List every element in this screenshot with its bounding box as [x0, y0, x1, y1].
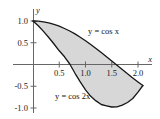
y-tick-label-neg1.0: -1.0 [15, 103, 28, 113]
x-tick-label-2.0: 2.0 [133, 68, 144, 78]
y-tick-label-1.0: 1.0 [17, 16, 28, 26]
x-axis-label: x [147, 54, 152, 64]
y-axis-label: y [35, 5, 40, 15]
x-tick-label-1.0: 1.0 [80, 68, 91, 78]
curve-label-cos-2x: y = cos 2x [55, 91, 91, 101]
y-tick-label-0.5: 0.5 [17, 38, 28, 48]
x-tick-label-1.5: 1.5 [106, 68, 117, 78]
figure-container: 0.5 1.0 1.5 2.0 1.0 0.5 -0.5 -1.0 y x y … [0, 0, 160, 119]
cosine-region-plot: 0.5 1.0 1.5 2.0 1.0 0.5 -0.5 -1.0 y x y … [0, 0, 160, 119]
curve-label-cos-x: y = cos x [88, 26, 120, 36]
x-tick-label-0.5: 0.5 [54, 68, 65, 78]
y-tick-label-neg0.5: -0.5 [15, 81, 28, 91]
